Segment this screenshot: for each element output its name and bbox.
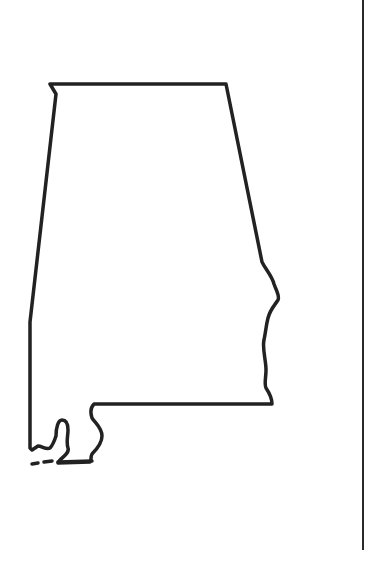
map-page: Alabama state outline — [0, 0, 366, 562]
page-edge-line — [362, 0, 364, 550]
alabama-outline — [30, 84, 279, 463]
state-outline-map — [0, 0, 366, 562]
